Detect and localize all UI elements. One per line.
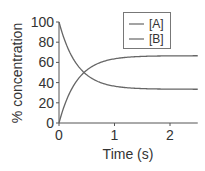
y-axis-label: % concentration: [9, 23, 25, 123]
y-tick-label: 40: [38, 75, 54, 91]
legend: [A] [B]: [124, 13, 171, 49]
x-tick-label: 2: [166, 127, 174, 143]
y-tick-label: 0: [46, 115, 54, 131]
y-tick-label: 100: [31, 14, 55, 30]
y-tick-label: 60: [38, 54, 54, 70]
x-tick-label: 1: [111, 127, 119, 143]
x-axis-label: Time (s): [103, 146, 154, 162]
y-tick-label: 20: [38, 95, 54, 111]
legend-label-a: [A]: [149, 17, 164, 31]
x-tick-label: 0: [55, 127, 63, 143]
y-tick-label: 80: [38, 34, 54, 50]
x-axis: 012: [55, 123, 198, 143]
legend-label-b: [B]: [149, 32, 164, 46]
chart: 020406080100 012 Time (s) % concentratio…: [0, 0, 205, 171]
y-axis: 020406080100: [31, 14, 59, 131]
